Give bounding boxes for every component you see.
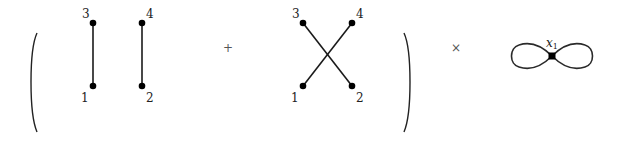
term-2-graph: 3 4 1 2 — [291, 7, 364, 105]
label-4: 4 — [356, 7, 364, 21]
label-2: 2 — [356, 91, 364, 105]
plus-operator: + — [223, 41, 233, 55]
label-4: 4 — [146, 7, 154, 21]
vertex-label: x1 — [546, 36, 558, 51]
diagram-canvas: 3 4 1 2 + 3 4 1 2 × x1 — [0, 0, 622, 143]
node-3 — [300, 20, 307, 27]
label-1: 1 — [81, 91, 89, 105]
vertex-x1 — [549, 53, 556, 60]
label-3: 3 — [292, 7, 300, 21]
node-1 — [300, 83, 307, 90]
node-2 — [349, 83, 356, 90]
node-1 — [90, 83, 97, 90]
label-2: 2 — [146, 91, 154, 105]
figure-eight-graph: x1 — [512, 36, 593, 68]
label-3: 3 — [82, 7, 90, 21]
vertex-label-subscript: 1 — [553, 42, 558, 51]
right-parenthesis — [404, 33, 410, 132]
term-1-graph: 3 4 1 2 — [81, 7, 154, 105]
node-4 — [349, 20, 356, 27]
times-operator: × — [451, 41, 461, 55]
label-1: 1 — [291, 91, 299, 105]
node-3 — [90, 20, 97, 27]
right-loop — [552, 44, 593, 68]
node-4 — [139, 20, 146, 27]
left-parenthesis — [31, 33, 37, 132]
node-2 — [139, 83, 146, 90]
